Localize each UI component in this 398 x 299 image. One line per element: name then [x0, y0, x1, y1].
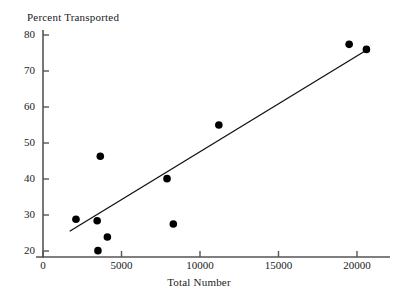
data-point: [163, 175, 171, 183]
x-tick-label: 20000: [327, 259, 387, 271]
data-points: [72, 41, 370, 255]
x-axis-title: Total Number: [0, 276, 398, 288]
y-tick-label: 30: [11, 208, 35, 220]
y-tick-label: 60: [11, 100, 35, 112]
x-axis-ticks: [43, 251, 357, 257]
y-tick-label: 50: [11, 136, 35, 148]
y-tick-label: 80: [11, 28, 35, 40]
plot-canvas: [0, 0, 398, 299]
y-tick-label: 70: [11, 64, 35, 76]
x-tick-label: 10000: [170, 259, 230, 271]
y-tick-label: 20: [11, 244, 35, 256]
x-tick-label: 5000: [92, 259, 152, 271]
x-tick-label: 15000: [249, 259, 309, 271]
data-point: [72, 216, 80, 224]
data-point: [345, 41, 353, 49]
y-tick-label: 40: [11, 172, 35, 184]
y-axis-ticks: [43, 35, 49, 251]
data-point: [363, 46, 371, 54]
data-point: [104, 233, 112, 241]
data-point: [93, 217, 101, 225]
data-point: [170, 220, 178, 228]
regression-line-path: [70, 48, 370, 231]
data-point: [94, 247, 102, 255]
regression-line: [70, 48, 370, 231]
scatter-plot-figure: Percent Transported 20304050607080 05000…: [0, 0, 398, 299]
x-tick-label: 0: [13, 259, 73, 271]
data-point: [215, 121, 223, 129]
data-point: [97, 153, 105, 161]
